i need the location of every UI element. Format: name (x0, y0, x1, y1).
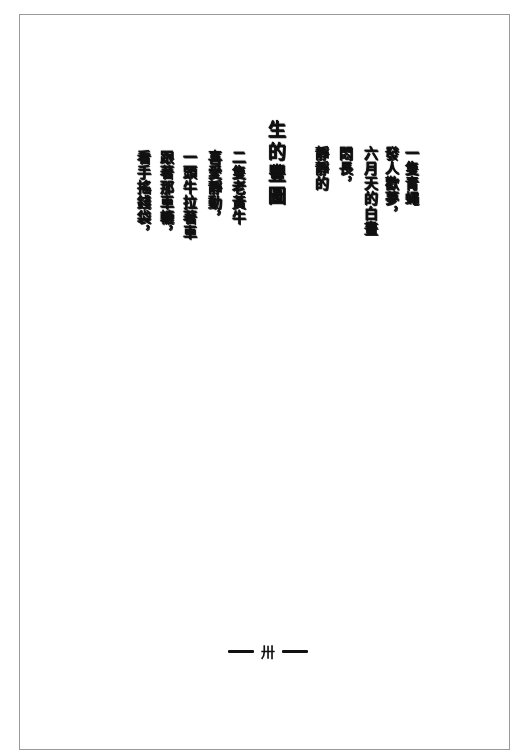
section-title-text: 生的豐圖 (266, 120, 284, 208)
poem-line-4: 悶長， (338, 146, 352, 191)
poem-line-8: 一頭牛拉著車 (182, 150, 196, 240)
poem-line-7: 喜愛靜動， (207, 150, 221, 225)
poem-line-5: 靜靜的 (314, 146, 328, 191)
footer-dash-right (282, 650, 308, 653)
poem-line-10: 看手搖錢袋， (136, 150, 150, 240)
poem-line-3: 六月天的白晝 (363, 146, 377, 236)
poem-line-6: 二隻老黃牛 (231, 150, 245, 225)
footer-dash-left (228, 650, 254, 653)
poem-line-1: 一隻青蠅 (404, 146, 418, 206)
page-number: 卅 (261, 641, 275, 661)
page-footer: 卅 (228, 640, 308, 662)
poem-line-9: 跟著那車轆， (159, 150, 173, 240)
poem-line-2: 發人歡夢， (384, 146, 398, 221)
